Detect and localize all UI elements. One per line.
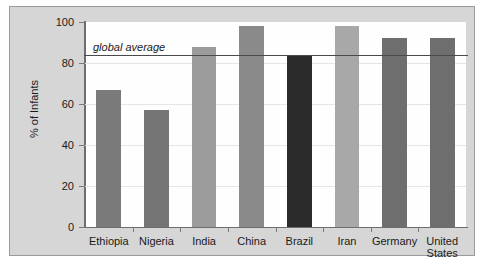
x-axis-label-india: India (180, 235, 228, 247)
bar-brazil (287, 55, 312, 227)
x-axis-tick (180, 227, 181, 232)
global-average-line (84, 55, 468, 56)
bar-ethiopia (96, 90, 121, 227)
x-axis-tick (418, 227, 419, 232)
y-axis-tick-label: 100 (10, 17, 74, 27)
bar-china (239, 26, 264, 227)
bar-nigeria (144, 110, 169, 227)
x-axis-tick (133, 227, 134, 232)
y-axis-tick-label: 60 (10, 99, 74, 109)
x-axis-tick (276, 227, 277, 232)
x-axis-tick (228, 227, 229, 232)
bar-india (192, 47, 217, 227)
x-axis-label-united-states: United States (418, 235, 466, 259)
x-axis-label-nigeria: Nigeria (133, 235, 181, 247)
x-axis-label-germany: Germany (371, 235, 419, 247)
y-axis-tick-label: 80 (10, 58, 74, 68)
y-axis-tick-label: 0 (10, 222, 74, 232)
x-axis-label-brazil: Brazil (276, 235, 324, 247)
bar-iran (335, 26, 360, 227)
x-axis-tick (323, 227, 324, 232)
bar-united-states (430, 38, 455, 227)
x-axis-tick (371, 227, 372, 232)
y-axis-tick-label: 20 (10, 181, 74, 191)
y-axis-title: % of Infants (28, 49, 40, 169)
y-axis-tick-label: 40 (10, 140, 74, 150)
y-axis-tick (79, 227, 85, 228)
x-axis-label-iran: Iran (323, 235, 371, 247)
chart-frame: 100806040200 % of Infants global average… (9, 6, 475, 256)
x-axis-label-china: China (228, 235, 276, 247)
global-average-label: global average (93, 41, 165, 53)
x-axis-label-ethiopia: Ethiopia (85, 235, 133, 247)
bar-germany (382, 38, 407, 227)
